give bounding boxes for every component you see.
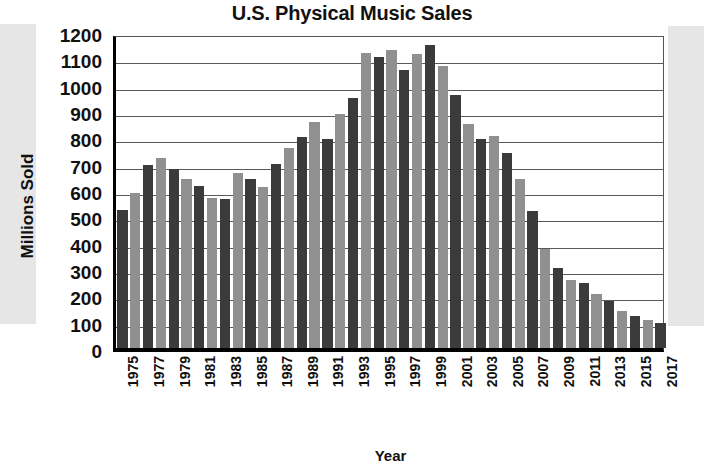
bar xyxy=(245,179,255,348)
y-axis-tick-label: 600 xyxy=(70,183,102,205)
bar xyxy=(322,139,332,348)
x-axis-tick-label: 1993 xyxy=(356,356,372,387)
bar xyxy=(335,114,345,348)
x-axis-tick-label: 1989 xyxy=(305,356,321,387)
y-axis-tick-label: 200 xyxy=(70,288,102,310)
bar xyxy=(489,136,499,348)
bar xyxy=(361,53,371,348)
bar xyxy=(591,294,601,348)
bar xyxy=(515,179,525,348)
y-axis-tick-label: 100 xyxy=(70,315,102,337)
bar xyxy=(630,316,640,348)
x-axis-tick-label: 2015 xyxy=(638,356,654,387)
bar xyxy=(271,164,281,348)
bar xyxy=(502,153,512,348)
x-axis-tick-label: 1987 xyxy=(279,356,295,387)
x-axis-tick-label: 1979 xyxy=(177,356,193,387)
bar xyxy=(143,165,153,348)
x-axis-tick-label: 1975 xyxy=(125,356,141,387)
x-axis-tick-label: 2013 xyxy=(612,356,628,387)
bar xyxy=(348,98,358,348)
bar xyxy=(258,187,268,348)
bar-series xyxy=(116,37,663,348)
x-axis-tick-label: 2011 xyxy=(587,356,603,386)
chart-title: U.S. Physical Music Sales xyxy=(0,2,704,25)
bar xyxy=(579,283,589,348)
bar xyxy=(540,249,550,348)
bar xyxy=(463,124,473,348)
bar xyxy=(117,210,127,348)
x-axis-tick-label: 1977 xyxy=(151,356,167,387)
bar xyxy=(386,50,396,348)
y-axis-tick-label: 400 xyxy=(70,236,102,258)
y-axis-tick-labels: 1200110010009008007006005004003002001000 xyxy=(0,36,108,352)
bar xyxy=(425,45,435,348)
x-axis-tick-label: 2007 xyxy=(535,356,551,387)
x-axis-title: Year xyxy=(113,447,668,464)
bar xyxy=(233,173,243,348)
x-axis-tick-label: 2003 xyxy=(484,356,500,387)
x-axis-tick-label: 1983 xyxy=(228,356,244,387)
bar xyxy=(374,57,384,348)
y-axis-tick-label: 500 xyxy=(70,209,102,231)
bar xyxy=(617,311,627,348)
x-axis-tick-label: 1981 xyxy=(202,356,218,387)
bar xyxy=(527,211,537,348)
bar xyxy=(194,186,204,348)
bar xyxy=(476,139,486,348)
bar xyxy=(169,169,179,348)
bar xyxy=(284,148,294,348)
y-axis-tick-label: 900 xyxy=(70,104,102,126)
bar xyxy=(156,158,166,348)
bar-chart: U.S. Physical Music Sales Millions Sold … xyxy=(0,0,704,469)
x-axis-tick-labels: 1975197719791981198319851987198919911993… xyxy=(113,356,664,416)
bar xyxy=(297,137,307,348)
bar xyxy=(655,323,665,348)
bar xyxy=(604,301,614,348)
y-axis-tick-label: 700 xyxy=(70,157,102,179)
bar xyxy=(450,95,460,348)
y-axis-tick-label: 1100 xyxy=(61,51,102,73)
x-axis-tick-label: 1999 xyxy=(433,356,449,387)
bar xyxy=(207,198,217,348)
bar xyxy=(566,280,576,348)
y-axis-tick-label: 1200 xyxy=(60,25,102,47)
bar xyxy=(553,268,563,348)
y-axis-tick-label: 1000 xyxy=(60,78,102,100)
plot-area xyxy=(113,36,664,352)
bar xyxy=(309,122,319,348)
bar xyxy=(438,66,448,348)
bar xyxy=(130,193,140,348)
y-axis-tick-label: 300 xyxy=(70,262,102,284)
bar xyxy=(643,320,653,348)
x-axis-tick-label: 2017 xyxy=(664,356,680,387)
x-axis-tick-label: 1997 xyxy=(407,356,423,387)
x-axis-tick-label: 1995 xyxy=(382,356,398,387)
bar xyxy=(220,199,230,348)
bar xyxy=(412,54,422,348)
x-axis-tick-label: 1991 xyxy=(330,356,346,387)
bar xyxy=(181,179,191,348)
y-axis-tick-label: 0 xyxy=(91,341,102,363)
bar xyxy=(399,70,409,348)
x-axis-tick-label: 2009 xyxy=(561,356,577,387)
x-axis-tick-label: 2001 xyxy=(459,356,475,387)
x-axis-tick-label: 1985 xyxy=(254,356,270,387)
y-axis-tick-label: 800 xyxy=(70,130,102,152)
x-axis-tick-label: 2005 xyxy=(510,356,526,387)
